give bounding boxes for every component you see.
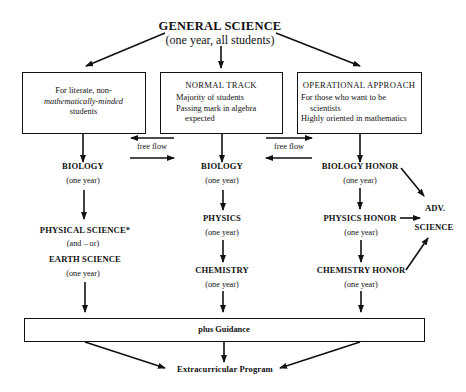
course-duration: (one year) [172,228,272,237]
course-biology: BIOLOGY [33,161,133,171]
course-biology-honor: BIOLOGY HONOR [300,161,420,171]
general-science-subtitle: (one year, all students) [120,33,320,48]
course-duration: (one year) [172,176,272,185]
course-duration: (one year) [310,176,410,185]
general-science-title: GENERAL SCIENCE [120,19,320,34]
course-biology: BIOLOGY [172,161,272,171]
adv-science-line1: ADV. [410,203,460,213]
box-line: For those who want to be [301,93,407,104]
box-line: mathematically-minded [23,97,144,108]
track-box-normal: NORMAL TRACK Majority of students Passin… [160,72,283,134]
track-box-operational: OPERATIONAL APPROACH For those who want … [297,72,422,134]
course-chemistry: CHEMISTRY [172,265,272,275]
course-duration: (one year) [33,269,133,278]
track-box-non-math: For literate, non- mathematically-minded… [22,72,146,134]
course-physical-science: PHYSICAL SCIENCE* [20,225,150,235]
course-connector: (and – or) [33,239,133,248]
course-earth-science: EARTH SCIENCE [20,254,150,264]
course-duration: (one year) [33,176,133,185]
box-title: NORMAL TRACK [161,80,281,90]
adv-science-line2: SCIENCE [406,222,462,232]
course-duration: (one year) [311,228,411,237]
box-line: expected [176,114,256,125]
free-flow-label-left: free flow [130,142,174,151]
box-line: For literate, non- [23,86,144,97]
box-line: students [23,107,144,118]
box-line: Majority of students [176,93,256,104]
box-line: Highly oriented in mathematics [301,114,407,125]
box-line: scientists [301,104,407,115]
science-curriculum-flowchart: GENERAL SCIENCE (one year, all students)… [0,0,466,392]
extracurricular-label: Extracurricular Program [160,364,290,374]
course-chemistry-honor: CHEMISTRY HONOR [296,265,426,275]
guidance-label: plus Guidance [25,325,423,336]
course-physics-honor: PHYSICS HONOR [300,213,420,223]
box-title: OPERATIONAL APPROACH [298,80,420,90]
course-physics: PHYSICS [172,213,272,223]
guidance-box: plus Guidance [24,318,425,342]
course-duration: (one year) [172,280,272,289]
box-line: Passing mark in algebra [176,104,256,115]
free-flow-label-right: free flow [267,142,311,151]
course-duration: (one year) [311,280,411,289]
